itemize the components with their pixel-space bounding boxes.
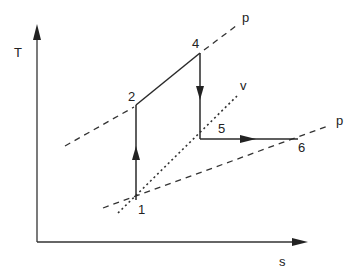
x-axis-arrow-icon xyxy=(292,238,308,246)
process-2-4 xyxy=(136,53,200,105)
point-6-label: 6 xyxy=(298,140,305,155)
point-5-label: 5 xyxy=(218,121,225,136)
y-axis-label: T xyxy=(14,45,22,60)
point-4-label: 4 xyxy=(192,36,199,51)
up-arrow-icon xyxy=(132,146,140,160)
isochore: v xyxy=(118,78,247,213)
down-arrow-icon xyxy=(196,86,204,100)
isochore-label: v xyxy=(240,78,247,93)
lower-isobar-label: p xyxy=(336,113,343,128)
y-axis-arrow-icon xyxy=(33,24,41,40)
ts-diagram: T s p v p 1 2 4 5 6 xyxy=(0,0,356,274)
axes: T s xyxy=(14,24,308,269)
process-4-5 xyxy=(196,53,204,139)
upper-isobar-left-segment xyxy=(65,107,134,146)
point-1-label: 1 xyxy=(138,202,145,217)
upper-isobar-label: p xyxy=(242,10,249,25)
right-arrow-icon xyxy=(240,135,256,143)
x-axis-label: s xyxy=(279,254,286,269)
point-labels: 1 2 4 5 6 xyxy=(128,36,305,217)
point-2-label: 2 xyxy=(128,89,135,104)
process-1-2 xyxy=(132,105,140,200)
upper-isobar-right-segment xyxy=(204,26,236,50)
